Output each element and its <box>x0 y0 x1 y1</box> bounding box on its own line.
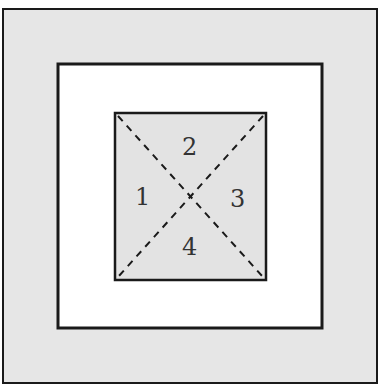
region-label-3: 3 <box>230 185 245 213</box>
region-label-1: 1 <box>135 183 150 211</box>
region-label-2: 2 <box>182 133 197 161</box>
nested-squares-diagram: 1 2 3 4 <box>0 0 391 389</box>
region-label-4: 4 <box>182 233 197 261</box>
